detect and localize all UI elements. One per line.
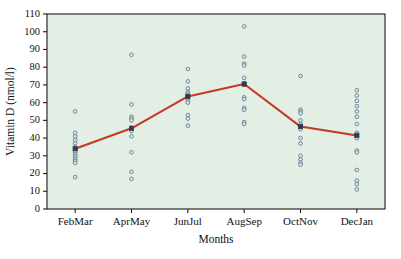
mean-marker <box>355 133 359 137</box>
data-point <box>355 168 359 172</box>
plot-area-background <box>47 14 385 209</box>
data-point <box>186 117 190 121</box>
data-point <box>130 177 134 181</box>
x-axis-title: Months <box>198 233 234 245</box>
y-tick-label: 80 <box>30 61 41 72</box>
data-point <box>130 170 134 174</box>
mean-marker <box>73 147 77 151</box>
y-tick-label: 30 <box>30 150 41 161</box>
data-point <box>186 67 190 71</box>
data-point <box>242 25 246 29</box>
y-tick-label: 40 <box>30 132 41 143</box>
y-tick-label: 0 <box>35 203 40 214</box>
data-point <box>186 124 190 128</box>
y-axis-title: Vitamin D (nmol/l) <box>4 67 17 156</box>
data-point <box>355 88 359 92</box>
data-point <box>73 161 77 165</box>
data-point <box>355 188 359 192</box>
y-tick-label: 10 <box>30 185 41 196</box>
data-point <box>355 94 359 98</box>
chart-canvas: 0102030405060708090100110 FebMarAprMayJu… <box>0 0 401 259</box>
y-tick-label: 20 <box>30 167 41 178</box>
y-tick-label: 50 <box>30 114 41 125</box>
data-point <box>355 150 359 154</box>
mean-marker <box>129 126 133 130</box>
data-point <box>299 142 303 146</box>
x-tick-label: DecJan <box>341 215 374 227</box>
data-point <box>130 103 134 107</box>
y-tick-label: 70 <box>30 79 41 90</box>
data-point <box>242 97 246 101</box>
vitamin-d-scatter-chart: 0102030405060708090100110 FebMarAprMayJu… <box>0 0 401 259</box>
y-tick-label: 100 <box>24 26 40 37</box>
data-point <box>355 122 359 126</box>
x-tick-label: JunJul <box>174 215 202 227</box>
data-point <box>299 163 303 167</box>
mean-marker <box>298 124 302 128</box>
y-tick-label: 60 <box>30 97 41 108</box>
data-point <box>130 119 134 123</box>
data-point <box>242 108 246 112</box>
data-point <box>355 115 359 119</box>
data-point <box>355 110 359 114</box>
mean-marker <box>186 94 190 98</box>
x-tick-label: OctNov <box>283 215 318 227</box>
y-tick-label: 90 <box>30 43 41 54</box>
data-point <box>299 136 303 140</box>
y-tick-label: 110 <box>25 8 40 19</box>
data-point <box>355 99 359 103</box>
x-tick-label: AugSep <box>226 215 262 227</box>
data-point <box>130 53 134 57</box>
x-tick-label: FebMar <box>58 215 93 227</box>
data-point <box>242 55 246 59</box>
data-point <box>186 101 190 105</box>
data-point <box>299 111 303 115</box>
data-point <box>242 76 246 80</box>
data-point <box>130 134 134 138</box>
data-point <box>130 150 134 154</box>
data-point <box>73 175 77 179</box>
data-point <box>242 64 246 68</box>
mean-marker <box>242 82 246 86</box>
data-point <box>299 74 303 78</box>
data-point <box>242 122 246 126</box>
data-point <box>73 110 77 114</box>
data-point <box>355 104 359 108</box>
x-tick-label: AprMay <box>113 215 151 227</box>
data-point <box>186 80 190 84</box>
data-point <box>355 182 359 186</box>
